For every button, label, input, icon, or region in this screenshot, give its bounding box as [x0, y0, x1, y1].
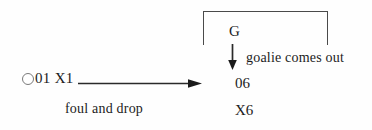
down-arrow-icon — [227, 44, 238, 70]
hollow-circle-icon — [22, 73, 34, 85]
start-node: 01 X1 — [22, 71, 74, 86]
defense-player-label: X6 — [235, 103, 253, 118]
goalkeeper-label: G — [229, 24, 240, 39]
offense-player-label: 06 — [235, 76, 250, 91]
top-bracket-icon — [203, 11, 328, 45]
start-node-label: 01 X1 — [35, 71, 74, 86]
tactics-diagram: 01 X1 foul and drop G goalie comes out 0… — [0, 0, 372, 130]
right-arrow-icon — [78, 79, 202, 88]
goalie-action-label: goalie comes out — [246, 51, 344, 65]
transition-label: foul and drop — [65, 102, 143, 116]
